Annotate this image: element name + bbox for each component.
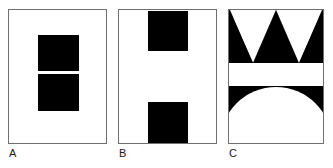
upper-square [38, 35, 79, 71]
top-square [148, 11, 188, 51]
figure-container: A B C [0, 0, 333, 168]
white-band [229, 63, 323, 86]
panel-a-shapes [9, 10, 106, 143]
lower-square [38, 74, 79, 111]
panel-label-c: C [229, 148, 237, 159]
panel-label-b: B [119, 148, 127, 159]
panel-a [8, 9, 107, 144]
panel-c [228, 9, 324, 144]
scan-artifact-row [0, 163, 333, 167]
panel-c-shapes [229, 10, 323, 143]
panel-label-a: A [9, 148, 17, 159]
panel-b-shapes [119, 10, 216, 143]
panel-b [118, 9, 217, 144]
bottom-square [148, 102, 188, 143]
